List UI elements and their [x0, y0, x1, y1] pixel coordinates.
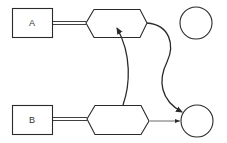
- hexagon-bottom: [87, 106, 149, 135]
- box-b: B: [13, 106, 53, 135]
- s-curve-arrow: [147, 23, 182, 112]
- flow-diagram: A B: [0, 0, 227, 143]
- hexagon-top: [86, 10, 147, 38]
- box-a-label: A: [29, 18, 35, 28]
- circle-bottom: [181, 105, 213, 137]
- connector-a-hex: [53, 22, 87, 25]
- circle-top: [180, 7, 212, 39]
- box-b-label: B: [29, 115, 35, 125]
- connector-b-hex: [53, 118, 88, 121]
- curved-arrow-up: [117, 28, 128, 105]
- box-a: A: [13, 9, 53, 38]
